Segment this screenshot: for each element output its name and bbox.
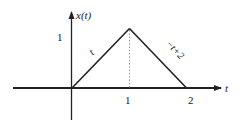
segment-rising-label: t [87, 47, 96, 57]
y-tick-label-1: 1 [57, 31, 63, 43]
segment-rising [72, 29, 130, 89]
y-axis-label: x(t) [75, 9, 92, 22]
x-tick-label-1: 1 [125, 94, 131, 106]
segment-falling-label: −t+2 [164, 38, 187, 61]
signal-diagram: x(t) t 1 1 2 t −t+2 [0, 0, 242, 121]
x-axis-label: t [225, 82, 229, 94]
x-tick-label-2: 2 [188, 94, 194, 106]
